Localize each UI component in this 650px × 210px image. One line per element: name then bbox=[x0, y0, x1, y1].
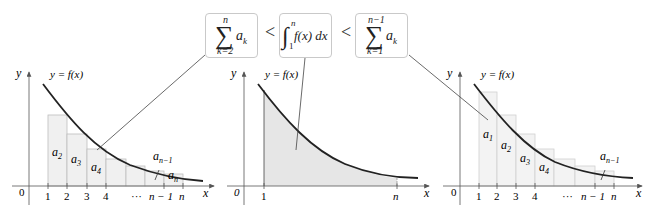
right-tick-2: 2 bbox=[494, 190, 500, 202]
right-tick-n: n bbox=[611, 190, 617, 202]
right-x-label: x bbox=[636, 186, 641, 201]
left-tick-4: 4 bbox=[103, 190, 109, 202]
integral-box: ∫ n 1 f(x) dx bbox=[279, 13, 332, 58]
left-tick-n: n bbox=[179, 190, 185, 202]
integral-upper: n bbox=[291, 18, 296, 28]
left-tick-3: 3 bbox=[84, 190, 90, 202]
right-tick-ellipsis: ··· bbox=[562, 190, 573, 202]
right-tick-1: 1 bbox=[476, 190, 482, 202]
middle-tick-n: n bbox=[393, 190, 399, 202]
integral-test-diagram: y x 0 y = f(x) 1 2 3 4 ··· n − 1 n a2 a3… bbox=[0, 0, 650, 210]
middle-y-label: y bbox=[231, 66, 236, 81]
right-tick-3: 3 bbox=[513, 190, 519, 202]
left-rect-label-a3: a3 bbox=[71, 152, 81, 168]
left-rect-label-an-1: an−1 bbox=[153, 149, 172, 165]
middle-x-label: x bbox=[424, 186, 429, 201]
left-leader-line bbox=[97, 55, 205, 150]
integral-lower: 1 bbox=[289, 41, 294, 51]
left-tick-1: 1 bbox=[45, 190, 51, 202]
left-tick-2: 2 bbox=[64, 190, 70, 202]
right-origin-label: 0 bbox=[451, 186, 457, 198]
right-rect-label-a1: a1 bbox=[483, 127, 493, 143]
right-tick-4: 4 bbox=[532, 190, 538, 202]
right-rect-label-a3: a3 bbox=[520, 151, 530, 167]
middle-origin-label: 0 bbox=[234, 186, 240, 198]
left-sum-term: ak bbox=[236, 28, 247, 46]
middle-panel bbox=[227, 58, 429, 205]
left-y-label: y bbox=[16, 66, 21, 81]
right-rect-label-an-1: an−1 bbox=[600, 149, 619, 165]
left-tick-ellipsis: ··· bbox=[131, 190, 142, 202]
left-origin-label: 0 bbox=[19, 186, 25, 198]
left-tick-n-minus-1: n − 1 bbox=[149, 190, 173, 202]
right-sum-lower: k=1 bbox=[367, 45, 383, 56]
right-tick-n-minus-1: n − 1 bbox=[581, 190, 605, 202]
left-panel bbox=[12, 55, 214, 205]
left-sum-lower: k=2 bbox=[217, 45, 233, 56]
right-curve-label: y = f(x) bbox=[481, 68, 514, 80]
integral-expression: f(x) dx bbox=[294, 28, 328, 44]
right-rect-label-a4: a4 bbox=[539, 160, 549, 176]
middle-tick-1: 1 bbox=[261, 190, 267, 202]
integral-icon: ∫ bbox=[282, 24, 289, 48]
less-than-2: < bbox=[341, 22, 351, 43]
right-y-label: y bbox=[447, 66, 452, 81]
left-rect-label-an: an bbox=[168, 168, 178, 184]
middle-area bbox=[264, 90, 397, 186]
left-sum-box: n ∑ k=2 ak bbox=[205, 13, 258, 58]
left-curve-label: y = f(x) bbox=[50, 68, 83, 80]
right-rect-label-a2: a2 bbox=[501, 138, 511, 154]
left-rect-label-a4: a4 bbox=[91, 160, 101, 176]
left-x-label: x bbox=[203, 186, 208, 201]
right-panel bbox=[409, 55, 642, 205]
middle-curve-label: y = f(x) bbox=[265, 68, 298, 80]
right-sum-term: ak bbox=[386, 28, 397, 46]
less-than-1: < bbox=[265, 22, 275, 43]
left-rect-label-a2: a2 bbox=[52, 145, 62, 161]
right-sum-box: n−1 ∑ k=1 ak bbox=[355, 13, 408, 58]
